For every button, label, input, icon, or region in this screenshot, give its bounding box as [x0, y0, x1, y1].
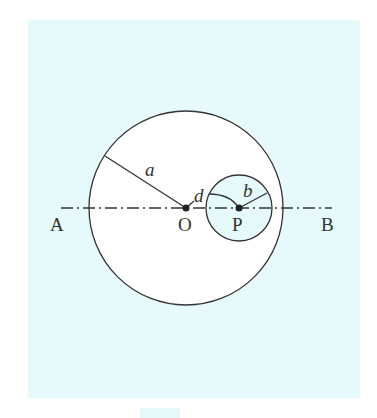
label-o: O	[178, 214, 192, 235]
diagram: A O P B a b d	[0, 0, 377, 418]
label-radius-a: a	[145, 159, 155, 180]
label-p: P	[232, 214, 243, 235]
point-o-dot	[183, 205, 190, 212]
caption-bar	[140, 408, 180, 418]
label-radius-b: b	[243, 180, 253, 201]
label-b-point: B	[321, 214, 334, 235]
point-p-dot	[236, 205, 243, 212]
label-a-point: A	[50, 214, 64, 235]
label-distance-d: d	[194, 185, 204, 206]
